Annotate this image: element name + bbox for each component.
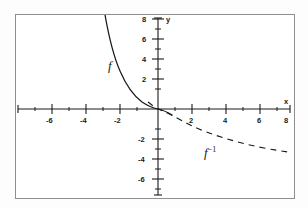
x-tick-label-4: 4	[223, 117, 227, 125]
curve-label-f-inverse: f−1	[204, 146, 216, 159]
y-tick-label--2: -2	[138, 136, 145, 144]
x-tick-label-6: 6	[257, 117, 261, 125]
y-tick-label-4: 4	[142, 56, 146, 64]
x-tick-label--6: -6	[46, 117, 53, 125]
y-tick-label-2: 2	[142, 76, 146, 84]
x-tick-label-8: 8	[284, 117, 288, 125]
curve-label-f-inverse-exponent: −1	[208, 145, 217, 154]
y-tick-label-6: 6	[142, 36, 146, 44]
y-axis-label: y	[166, 16, 170, 24]
plot-frame: -6 -4 -2 2 4 6 8 8 6 4 2 -2 -4 -6 y x f …	[15, 14, 295, 199]
x-axis-label: x	[284, 98, 288, 106]
y-tick-label--4: -4	[138, 156, 145, 164]
y-tick-label--6: -6	[138, 176, 145, 184]
figure-root: -6 -4 -2 2 4 6 8 8 6 4 2 -2 -4 -6 y x f …	[0, 0, 308, 209]
x-tick-label--2: -2	[114, 117, 121, 125]
y-tick-label-8: 8	[142, 16, 146, 24]
x-tick-label--4: -4	[80, 117, 87, 125]
coordinate-plot	[16, 15, 294, 198]
curve-f	[104, 15, 172, 115]
curve-label-f: f	[108, 59, 112, 72]
x-tick-label-2: 2	[189, 117, 193, 125]
